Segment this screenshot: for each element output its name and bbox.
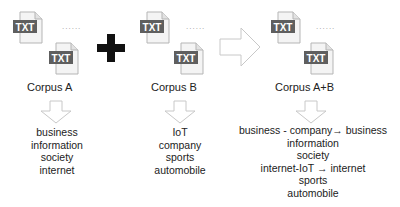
corpus-ab-label: Corpus A+B xyxy=(275,81,334,93)
ellipsis: ...... xyxy=(316,22,335,31)
term: internet xyxy=(17,164,97,177)
txt-file-icon: TXT xyxy=(270,11,296,41)
down-arrow-icon xyxy=(39,100,73,124)
term: information xyxy=(17,139,97,152)
term: sports xyxy=(231,174,395,187)
term: business xyxy=(17,126,97,139)
corpus-b-terms: IoT company sports automobile xyxy=(140,126,220,176)
term: IoT xyxy=(140,126,220,139)
term: society xyxy=(17,151,97,164)
txt-file-icon: TXT xyxy=(12,11,38,41)
corpus-ab-terms: business - company→ business information… xyxy=(231,124,395,199)
svg-text:TXT: TXT xyxy=(52,53,71,64)
term: internet-IoT → internet xyxy=(231,162,395,175)
term: information xyxy=(231,137,395,150)
ellipsis: ...... xyxy=(62,22,81,31)
term: business - company→ business xyxy=(231,124,395,137)
txt-file-icon: TXT xyxy=(173,42,199,72)
svg-text:TXT: TXT xyxy=(177,53,196,64)
right-arrow-icon xyxy=(219,27,261,67)
corpus-a-terms: business information society internet xyxy=(17,126,97,176)
down-arrow-icon xyxy=(163,100,197,124)
txt-file-icon: TXT xyxy=(139,11,165,41)
svg-text:TXT: TXT xyxy=(307,53,326,64)
term: society xyxy=(231,149,395,162)
term: automobile xyxy=(231,187,395,200)
corpus-b-label: Corpus B xyxy=(151,81,197,93)
term: company xyxy=(140,139,220,152)
svg-text:TXT: TXT xyxy=(143,22,162,33)
ellipsis: ...... xyxy=(186,22,205,31)
down-arrow-icon xyxy=(294,100,328,124)
txt-file-icon: TXT xyxy=(48,42,74,72)
svg-text:TXT: TXT xyxy=(274,22,293,33)
svg-text:TXT: TXT xyxy=(16,22,35,33)
term: automobile xyxy=(140,164,220,177)
plus-icon xyxy=(96,33,126,63)
corpus-a-label: Corpus A xyxy=(27,81,72,93)
txt-file-icon: TXT xyxy=(303,42,329,72)
term: sports xyxy=(140,151,220,164)
